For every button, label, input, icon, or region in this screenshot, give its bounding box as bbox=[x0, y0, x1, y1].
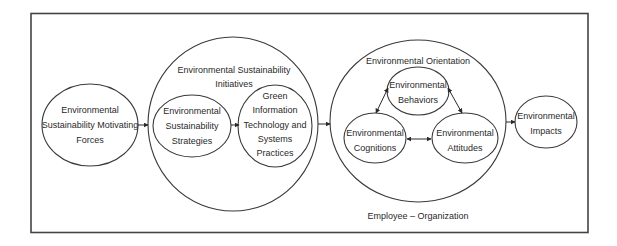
cognitions-line-2: Cognitions bbox=[354, 143, 397, 153]
impacts-ellipse bbox=[515, 96, 577, 148]
node-sustainability-initiatives: Environmental Sustainability Initiatives… bbox=[148, 37, 318, 211]
cognitions-line-1: Environmental bbox=[346, 128, 404, 138]
strategies-line-2: Sustainability bbox=[165, 121, 219, 131]
initiatives-title-line-1: Environmental Sustainability bbox=[177, 65, 291, 75]
green-it-line-5: Practices bbox=[256, 148, 294, 158]
behaviors-line-1: Environmental bbox=[389, 80, 447, 90]
node-environmental-attitudes: Environmental Attitudes bbox=[432, 113, 498, 163]
green-it-line-3: Technology and bbox=[243, 120, 306, 130]
node-environmental-orientation: Environmental Orientation Environmental … bbox=[330, 40, 506, 202]
green-it-line-4: Systems bbox=[258, 134, 293, 144]
behaviors-ellipse bbox=[387, 67, 449, 115]
conceptual-model-diagram: Environmental Sustainability Motivating … bbox=[0, 0, 617, 246]
attitudes-line-2: Attitudes bbox=[447, 143, 483, 153]
node-environmental-behaviors: Environmental Behaviors bbox=[387, 67, 449, 115]
impacts-line-1: Environmental bbox=[517, 111, 575, 121]
node-environmental-cognitions: Environmental Cognitions bbox=[344, 113, 406, 163]
level-label: Employee – Organization bbox=[367, 211, 468, 221]
cognitions-ellipse bbox=[344, 113, 406, 163]
orientation-title: Environmental Orientation bbox=[366, 56, 470, 66]
motivating-forces-line-1: Environmental bbox=[61, 105, 119, 115]
node-environmental-impacts: Environmental Impacts bbox=[515, 96, 577, 148]
motivating-forces-line-2: Sustainability Motivating bbox=[42, 120, 139, 130]
strategies-line-1: Environmental bbox=[163, 106, 221, 116]
node-sustainability-strategies: Environmental Sustainability Strategies bbox=[153, 95, 231, 157]
node-green-it-practices: Green Information Technology and Systems… bbox=[238, 85, 312, 167]
impacts-line-2: Impacts bbox=[530, 126, 562, 136]
green-it-line-1: Green bbox=[262, 91, 287, 101]
node-motivating-forces: Environmental Sustainability Motivating … bbox=[42, 84, 139, 166]
attitudes-line-1: Environmental bbox=[436, 128, 494, 138]
behaviors-line-2: Behaviors bbox=[398, 95, 439, 105]
strategies-line-3: Strategies bbox=[172, 136, 213, 146]
motivating-forces-line-3: Forces bbox=[76, 135, 104, 145]
green-it-line-2: Information bbox=[252, 105, 297, 115]
attitudes-ellipse bbox=[432, 113, 498, 163]
initiatives-title-line-2: Initiatives bbox=[215, 79, 253, 89]
